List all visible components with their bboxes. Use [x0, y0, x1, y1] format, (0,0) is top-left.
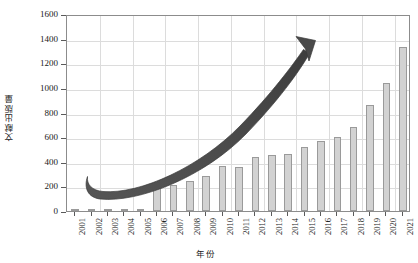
x-tick-mark — [287, 212, 288, 216]
bar — [350, 127, 358, 211]
bar — [399, 47, 407, 211]
x-tick-label: 2018 — [357, 218, 366, 235]
x-tick-label: 2021 — [406, 218, 415, 235]
bar — [170, 185, 178, 211]
x-tick-label: 2013 — [275, 218, 284, 235]
bar — [121, 209, 129, 211]
y-tick-mark — [61, 212, 66, 213]
x-tick-label: 2012 — [258, 218, 267, 235]
x-tick-label: 2020 — [389, 218, 398, 235]
x-tick-mark — [385, 212, 386, 216]
y-tick-label: 1000 — [18, 84, 58, 93]
bar — [104, 209, 112, 211]
x-tick-label: 2002 — [95, 218, 104, 235]
x-tick-mark — [189, 212, 190, 216]
y-axis-title: 文献出版量 — [2, 62, 18, 172]
bar — [366, 105, 374, 211]
x-tick-mark — [91, 212, 92, 216]
x-tick-label: 2019 — [373, 218, 382, 235]
bar — [153, 188, 161, 211]
y-tick-label: 1400 — [18, 35, 58, 44]
y-tick-label: 0 — [18, 207, 58, 216]
bar — [301, 147, 309, 211]
bar — [252, 157, 260, 211]
x-tick-mark — [205, 212, 206, 216]
bar-chart-figure: 文献出版量 02004006008001000120014001600 2001… — [0, 0, 418, 263]
x-tick-label: 2015 — [308, 218, 317, 235]
x-tick-mark — [353, 212, 354, 216]
x-tick-mark — [74, 212, 75, 216]
bar — [334, 137, 342, 211]
y-tick-label: 400 — [18, 158, 58, 167]
y-tick-label: 200 — [18, 182, 58, 191]
bar — [235, 167, 243, 211]
x-tick-label: 2004 — [127, 218, 136, 235]
x-tick-label: 2010 — [226, 218, 235, 235]
y-tick-label: 600 — [18, 133, 58, 142]
y-tick-label: 1200 — [18, 59, 58, 68]
x-tick-label: 2008 — [193, 218, 202, 235]
x-tick-mark — [107, 212, 108, 216]
x-tick-mark — [222, 212, 223, 216]
x-tick-label: 2011 — [242, 218, 251, 235]
bar — [284, 154, 292, 211]
x-tick-label: 2001 — [78, 218, 87, 235]
x-tick-mark — [336, 212, 337, 216]
bars-layer — [67, 16, 409, 211]
bar — [219, 166, 227, 211]
y-tick-label: 1600 — [18, 10, 58, 19]
bar — [71, 209, 79, 211]
bar — [88, 209, 96, 211]
bar — [383, 83, 391, 211]
x-tick-mark — [254, 212, 255, 216]
x-tick-mark — [304, 212, 305, 216]
x-tick-label: 2006 — [160, 218, 169, 235]
bar — [137, 209, 145, 211]
x-tick-mark — [172, 212, 173, 216]
x-tick-mark — [156, 212, 157, 216]
x-tick-label: 2017 — [340, 218, 349, 235]
x-tick-label: 2014 — [291, 218, 300, 235]
bar — [317, 141, 325, 211]
plot-area — [66, 15, 410, 212]
x-tick-label: 2003 — [111, 218, 120, 235]
x-tick-mark — [238, 212, 239, 216]
x-tick-label: 2007 — [176, 218, 185, 235]
bar — [202, 176, 210, 211]
x-tick-mark — [123, 212, 124, 216]
x-axis-title: 年份 — [196, 247, 215, 259]
x-tick-label: 2016 — [324, 218, 333, 235]
bar — [186, 181, 194, 211]
x-tick-mark — [320, 212, 321, 216]
x-tick-label: 2009 — [209, 218, 218, 235]
x-tick-mark — [402, 212, 403, 216]
x-tick-label: 2005 — [144, 218, 153, 235]
x-tick-mark — [140, 212, 141, 216]
y-tick-label: 800 — [18, 109, 58, 118]
x-tick-mark — [271, 212, 272, 216]
x-tick-mark — [369, 212, 370, 216]
bar — [268, 155, 276, 211]
